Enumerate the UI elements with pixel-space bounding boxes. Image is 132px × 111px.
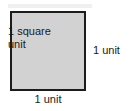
unit-square-shape <box>10 11 86 91</box>
square-area-label: 1 square unit <box>8 25 68 51</box>
scan-artifact <box>8 4 92 8</box>
square-area-label-line1: 1 square <box>8 25 68 38</box>
right-side-length-label: 1 unit <box>93 44 120 57</box>
unit-square-diagram: 1 square unit 1 unit 1 unit <box>0 0 132 111</box>
square-area-label-line2: unit <box>8 38 68 51</box>
bottom-side-length-label: 1 unit <box>0 93 96 106</box>
